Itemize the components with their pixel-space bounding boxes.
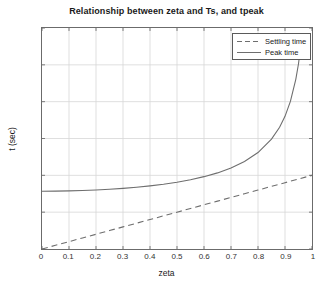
x-tick-label: 0.1 [63,252,74,261]
solid-line-icon [236,48,262,57]
x-tick-label: 0.7 [226,252,237,261]
x-axis-label: zeta [0,268,333,278]
x-tick-label: 0.5 [171,252,182,261]
x-tick-label: 0.8 [253,252,264,261]
x-tick-label: 0 [39,252,43,261]
data-series-layer [42,28,312,249]
legend-label-settling-time: Settling time [265,37,306,46]
series-path-0 [42,175,312,249]
x-tick-label: 1 [311,252,315,261]
legend-label-peak-time: Peak time [265,48,298,57]
x-tick-label: 0.3 [117,252,128,261]
legend-item-settling-time: Settling time [236,36,307,47]
plot-area [41,27,313,250]
chart-title: Relationship between zeta and Ts, and tp… [0,6,333,16]
legend-item-peak-time: Peak time [236,47,307,58]
y-axis-label: t (sec) [7,109,17,169]
dashed-line-icon [236,37,262,46]
x-tick-label: 0.4 [144,252,155,261]
x-tick-label: 0.6 [199,252,210,261]
x-tick-label: 0.9 [280,252,291,261]
chart-figure: Relationship between zeta and Ts, and tp… [0,0,333,293]
chart-legend: Settling time Peak time [232,33,311,60]
series-path-1 [42,42,301,191]
x-tick-label: 0.2 [90,252,101,261]
